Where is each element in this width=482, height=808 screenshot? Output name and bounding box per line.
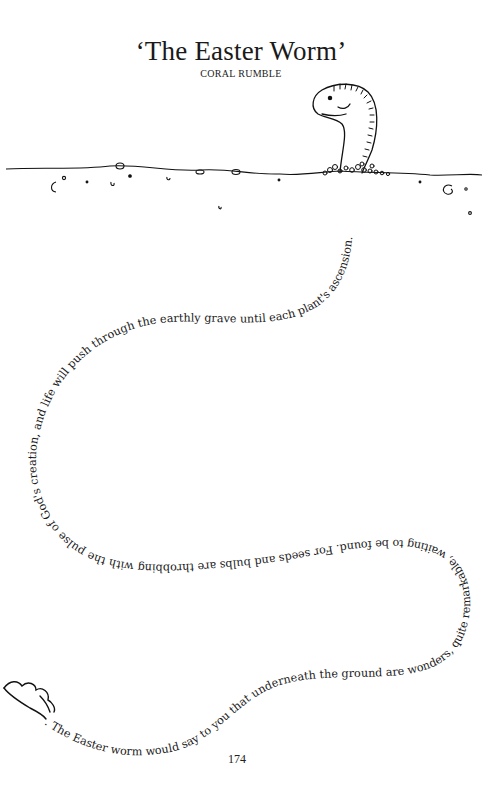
page-number: 174 xyxy=(228,752,246,767)
poem-body: . The Easter worm would say to you that … xyxy=(26,236,473,758)
worm-illustration: . The Easter worm would say to you that … xyxy=(0,0,482,808)
ground-line-icon xyxy=(6,163,482,214)
worm-head-icon xyxy=(313,84,390,176)
worm-tail-icon xyxy=(4,682,55,719)
poem-text-path: . The Easter worm would say to you that … xyxy=(26,236,473,758)
